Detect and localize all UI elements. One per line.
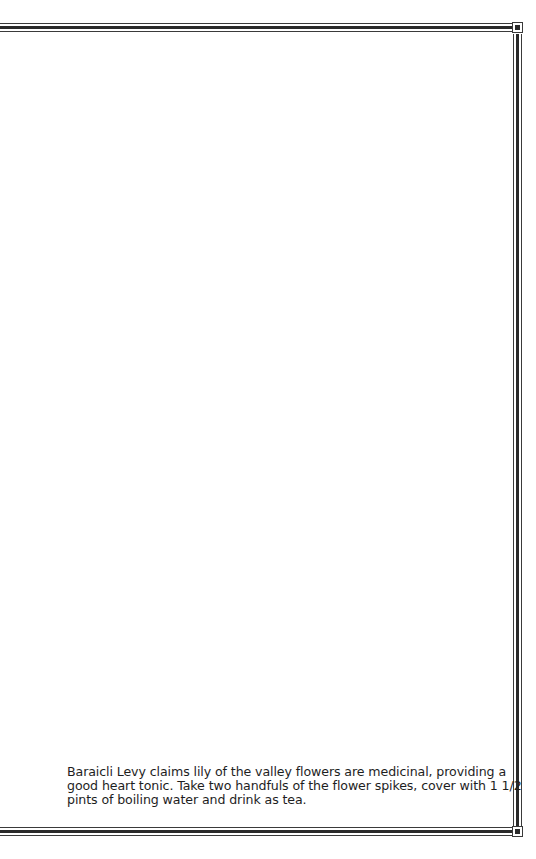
top-border-rule xyxy=(0,22,514,34)
bottom-border-thin-line xyxy=(0,835,514,836)
right-border-thick-line xyxy=(516,34,519,826)
bottom-border-thick-line xyxy=(0,830,514,833)
caption-line: good heart tonic. Take two handfuls of t… xyxy=(67,779,507,793)
corner-square-fill xyxy=(515,829,520,834)
caption-line: Baraicli Levy claims lily of the valley … xyxy=(67,765,507,779)
top-border-thin-line xyxy=(0,31,514,32)
right-border-thin-line xyxy=(521,34,522,826)
caption-line: pints of boiling water and drink as tea. xyxy=(67,793,507,807)
top-border-thin-line xyxy=(0,23,514,24)
bottom-right-corner-ornament-icon xyxy=(512,826,523,837)
corner-square-fill xyxy=(515,25,520,30)
top-right-corner-ornament-icon xyxy=(512,22,523,33)
top-border-thick-line xyxy=(0,26,514,29)
caption-paragraph: Baraicli Levy claims lily of the valley … xyxy=(67,765,507,807)
bottom-border-rule xyxy=(0,826,514,838)
document-page: Baraicli Levy claims lily of the valley … xyxy=(0,0,536,859)
right-border-thin-line xyxy=(513,34,514,826)
right-border-rule xyxy=(512,34,524,826)
bottom-border-thin-line xyxy=(0,827,514,828)
